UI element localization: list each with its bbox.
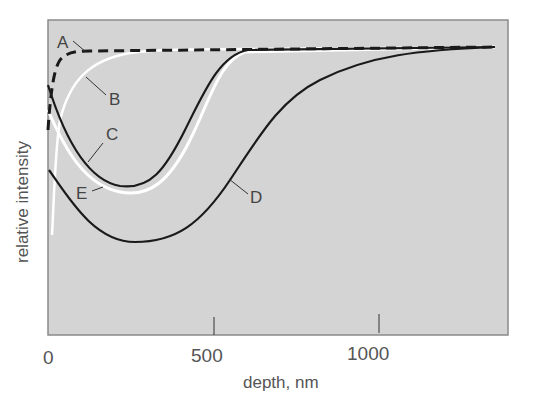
label-a: A [57,33,69,52]
label-c: C [106,125,118,144]
label-b: B [109,90,120,109]
x-tick-label-0: 0 [43,347,54,368]
label-e: E [76,184,87,203]
y-axis-label: relative intensity [13,141,32,263]
chart: A B C E D 0 500 1000 depth, nm relative … [0,0,538,400]
label-d: D [250,188,262,207]
x-axis-label: depth, nm [243,373,319,392]
plot-area [48,20,508,335]
x-tick-label-500: 500 [191,345,223,366]
x-tick-label-1000: 1000 [347,343,389,364]
